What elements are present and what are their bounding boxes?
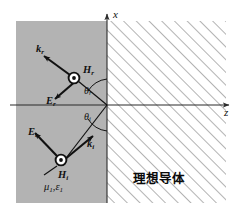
incident-h-symbol: H	[58, 169, 66, 180]
incident-angle-subscript: i	[89, 115, 91, 122]
permittivity-subscript: 1	[60, 186, 64, 194]
reflected-angle-subscript: r	[89, 89, 92, 96]
incident-k-label: ki	[87, 139, 94, 151]
reflected-h-symbol: H	[83, 64, 91, 75]
reflected-angle-label: θr	[84, 86, 92, 97]
reflected-h-label: Hr	[83, 65, 94, 77]
physics-diagram-figure: x z kr Hr Er θr θi Ei ki Hi μ1,ε1 理想导体	[0, 0, 241, 215]
reflected-h-dot	[72, 76, 76, 80]
reflected-k-subscript: r	[41, 48, 44, 56]
incident-e-subscript: i	[35, 131, 37, 139]
diagram-canvas	[0, 0, 241, 215]
reflected-e-label: Er	[46, 96, 56, 108]
incident-e-symbol: E	[28, 126, 35, 137]
incident-angle-label: θi	[84, 112, 91, 123]
x-axis-label: x	[113, 9, 118, 20]
reflected-h-subscript: r	[91, 69, 94, 77]
perfect-conductor-label: 理想导体	[133, 173, 185, 186]
incident-e-label: Ei	[28, 127, 37, 139]
incident-h-subscript: i	[66, 174, 68, 182]
medium-1-material-label: μ1,ε1	[44, 182, 63, 194]
reflected-k-label: kr	[36, 44, 44, 56]
incident-h-dot	[59, 158, 63, 162]
z-axis-label: z	[224, 107, 228, 118]
incident-k-subscript: i	[92, 143, 94, 151]
reflected-e-subscript: r	[53, 100, 56, 108]
reflected-e-symbol: E	[46, 95, 53, 106]
incident-h-label: Hi	[58, 170, 68, 182]
